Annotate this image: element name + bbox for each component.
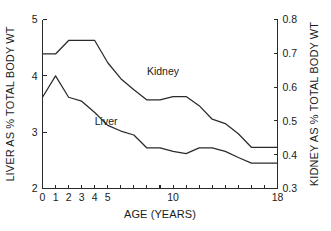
x-axis-title: AGE (YEARS) xyxy=(124,208,196,220)
series-label-liver: Liver xyxy=(95,115,118,127)
y-axis-title-right: KIDNEY AS % TOTAL BODY WT xyxy=(308,22,320,186)
y-tick-label-left: 2 xyxy=(32,182,38,194)
y-tick-label-right: 0.3 xyxy=(283,182,298,194)
chart-ticks xyxy=(43,20,278,189)
y-tick-label-right: 0.8 xyxy=(283,13,298,25)
series-line-liver xyxy=(43,76,278,163)
y-tick-label-left: 5 xyxy=(32,13,38,25)
x-tick-label: 5 xyxy=(105,191,111,203)
x-tick-label: 4 xyxy=(92,191,98,203)
y-tick-label-right: 0.5 xyxy=(283,115,298,127)
chart-series xyxy=(43,40,278,163)
chart-canvas: 012345101823450.30.40.50.60.70.8 LiverKi… xyxy=(0,0,331,231)
y-tick-label-right: 0.7 xyxy=(283,47,298,59)
y-tick-label-left: 4 xyxy=(32,70,38,82)
chart-figure: 012345101823450.30.40.50.60.70.8 LiverKi… xyxy=(0,0,331,231)
chart-axes xyxy=(43,20,278,189)
x-tick-label: 3 xyxy=(79,191,85,203)
x-tick-label: 10 xyxy=(167,191,179,203)
y-tick-label-left: 3 xyxy=(32,126,38,138)
x-tick-label: 2 xyxy=(66,191,72,203)
chart-tick-labels: 012345101823450.30.40.50.60.70.8 xyxy=(32,13,298,202)
chart-series-labels: LiverKidney xyxy=(95,65,180,127)
y-tick-label-right: 0.4 xyxy=(283,149,298,161)
x-tick-label: 1 xyxy=(53,191,59,203)
x-tick-label: 0 xyxy=(40,191,46,203)
series-label-kidney: Kidney xyxy=(147,65,180,77)
series-line-kidney xyxy=(43,40,278,147)
y-tick-label-right: 0.6 xyxy=(283,81,298,93)
y-axis-title-left: LIVER AS % TOTAL BODY WT xyxy=(4,26,16,181)
